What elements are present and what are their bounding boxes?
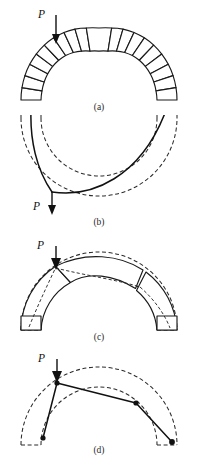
load-label-a: P [37, 8, 45, 20]
hinge-dot-crown [133, 400, 138, 405]
panel-b-inverted-thrust: P (b) [0, 115, 198, 230]
dashed-arch-outline-b [21, 115, 177, 196]
hinge-dot-left [40, 435, 45, 440]
mechanism-blocks-c [21, 257, 177, 330]
arch-blocks-group [21, 28, 177, 100]
panel-caption-c: (c) [94, 332, 105, 343]
panel-a-voussoir-arch: P (a) [0, 0, 198, 115]
hinge-dot-right [169, 439, 175, 445]
hinge-points-d [40, 380, 175, 445]
panel-c-hinged-mechanism: P (c) [0, 230, 198, 345]
base-block-left-c [21, 316, 41, 330]
panel-caption-b: (b) [93, 217, 104, 228]
load-label-c: P [36, 239, 44, 251]
base-block-right-c [157, 316, 177, 330]
panel-caption-a: (a) [94, 102, 105, 113]
load-label-b: P [32, 200, 40, 212]
voussoir-blocks [21, 28, 177, 100]
figure-root: P (a) P (b) [0, 0, 198, 460]
panel-d-rigid-link-mechanism: P (d) [0, 345, 198, 460]
load-label-d: P [37, 352, 45, 364]
load-arrow-b [48, 192, 56, 215]
load-arrow-d [52, 359, 62, 383]
panel-caption-d: (d) [93, 445, 104, 456]
rigid-links-d [43, 383, 172, 442]
deformed-thrust-curve-b [31, 115, 165, 193]
